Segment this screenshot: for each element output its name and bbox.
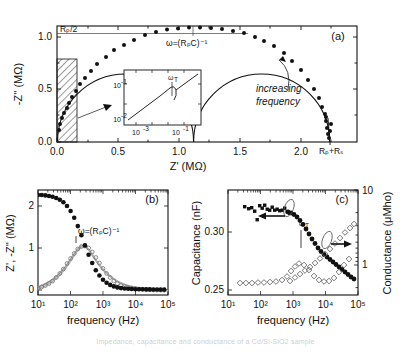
panel-c-right-ytick-1: 10 bbox=[362, 185, 374, 196]
panel-c-xlabel: frequency (Hz) bbox=[257, 314, 329, 326]
panel-c-xtick-1: 10² bbox=[253, 299, 268, 310]
panel-c-ylabel-left: Capacitance (nF) bbox=[190, 201, 202, 285]
panel-b: 0 1 2 10¹ 10² 10³ 10⁴ 10⁵ frequency (Hz)… bbox=[4, 190, 176, 326]
panel-b-ytick-0: 0 bbox=[28, 284, 34, 295]
panel-c-xtick-0: 10¹ bbox=[221, 299, 236, 310]
z-imag-fit-2 bbox=[38, 247, 168, 291]
increasing-frequency-label-2: frequency bbox=[256, 96, 301, 107]
panel-a-id: (a) bbox=[331, 30, 344, 42]
inset-xtick-1-exp: -3 bbox=[143, 125, 149, 132]
panel-c-xticks bbox=[228, 190, 358, 295]
panel-b-id: (b) bbox=[145, 193, 158, 205]
panel-c-ylabel-right: Conductance (μMho) bbox=[381, 192, 393, 295]
panel-b-xtick-2: 10³ bbox=[96, 299, 111, 310]
left-arrow-head bbox=[258, 213, 266, 220]
inset-xtick-2-exp: -1 bbox=[183, 125, 189, 132]
panel-b-xtick-4: 10⁵ bbox=[160, 299, 175, 310]
panel-a-xtick-1: 0.5 bbox=[111, 146, 125, 157]
panel-a: 0.0 0.5 1.0 1.5 2.0 0.0 0.5 1.0 Z' (MΩ) … bbox=[12, 24, 357, 172]
panel-b-xtick-1: 10² bbox=[63, 299, 78, 310]
inset-ytick-2-exp: -2 bbox=[121, 112, 127, 119]
panel-c-left-ytick-1: 0.30 bbox=[205, 226, 225, 237]
inset-xtick-1: 10 bbox=[132, 129, 140, 136]
panel-c: 0.25 0.30 1 10 10¹ 10² 10³ 10⁴ 10⁵ frequ… bbox=[190, 185, 393, 326]
omega-peak-label-b: ω=(RₚC)⁻¹ bbox=[78, 226, 120, 236]
panel-a-right-ticks bbox=[353, 37, 357, 115]
panel-c-id: (c) bbox=[336, 193, 349, 205]
panel-a-xtick-4: 2.0 bbox=[294, 146, 308, 157]
increasing-frequency-label-1: increasing bbox=[256, 83, 302, 94]
figure-canvas: 0.0 0.5 1.0 1.5 2.0 0.0 0.5 1.0 Z' (MΩ) … bbox=[0, 0, 411, 352]
omega-peak-label-a: ω=(RₚC)⁻¹ bbox=[166, 38, 208, 48]
panel-b-xtick-3: 10⁴ bbox=[128, 299, 143, 310]
panel-b-xlabel: frequency (Hz) bbox=[67, 314, 139, 326]
panel-a-ytick-2: 1.0 bbox=[38, 31, 52, 42]
panel-c-xtick-4: 10⁵ bbox=[350, 299, 365, 310]
inset-omega-t-subscript: T bbox=[174, 76, 178, 83]
panel-b-ylabel: Z', -Z'' (MΩ) bbox=[4, 214, 16, 271]
inset-ytick-1-exp: -1 bbox=[121, 78, 127, 85]
inset-xtick-2: 10 bbox=[172, 129, 180, 136]
panel-c-xtick-3: 10⁴ bbox=[318, 299, 333, 310]
panel-c-xtick-2: 10³ bbox=[286, 299, 301, 310]
z-imag-series bbox=[36, 244, 166, 292]
panel-a-ytick-1: 0.5 bbox=[38, 83, 52, 94]
panel-a-ytick-0: 0.0 bbox=[38, 136, 52, 147]
panel-c-left-yticks bbox=[228, 232, 232, 290]
inset-pointer-line bbox=[78, 107, 106, 118]
figure-caption-faint: Impedance, capacitance and conductance o… bbox=[0, 338, 411, 352]
panel-a-xtick-0: 0.0 bbox=[50, 146, 64, 157]
panel-a-xtick-2: 1.0 bbox=[172, 146, 186, 157]
panel-c-right-yticks bbox=[354, 190, 358, 288]
panel-a-xlabel: Z' (MΩ) bbox=[170, 160, 207, 172]
panel-c-frame bbox=[228, 190, 358, 295]
right-arrow-head bbox=[344, 241, 352, 248]
panel-a-ylabel: -Z'' (MΩ) bbox=[12, 63, 24, 105]
figure-impedance-spectroscopy: 0.0 0.5 1.0 1.5 2.0 0.0 0.5 1.0 Z' (MΩ) … bbox=[0, 0, 411, 352]
rp-plus-rs-label: Rₚ+Rₛ bbox=[319, 146, 343, 156]
panel-a-xtick-3: 1.5 bbox=[233, 146, 247, 157]
panel-b-ytick-1: 1 bbox=[28, 242, 34, 253]
inset-ytick-1: 10 bbox=[113, 82, 121, 89]
inset-frame bbox=[124, 70, 201, 125]
right-arrow-ellipse bbox=[320, 230, 335, 250]
panel-b-xtick-0: 10¹ bbox=[31, 299, 46, 310]
panel-b-ytick-2: 2 bbox=[28, 200, 34, 211]
panel-c-left-ytick-0: 0.25 bbox=[205, 284, 225, 295]
panel-c-right-ytick-0: 1 bbox=[362, 259, 368, 270]
rp-half-label: Rₚ/2 bbox=[60, 24, 78, 34]
inset-ytick-2: 10 bbox=[113, 116, 121, 123]
